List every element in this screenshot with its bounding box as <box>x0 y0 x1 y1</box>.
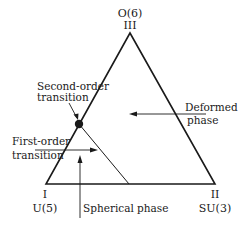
left-vertex-roman: I <box>43 188 47 201</box>
deformed-phase-label-line2: phase <box>187 114 218 126</box>
symmetry-triangle-diagram: O(6) III I U(5) II SU(3) Second-order tr… <box>0 0 240 228</box>
left-vertex-symmetry: U(5) <box>33 202 58 215</box>
right-vertex-roman: II <box>211 188 220 201</box>
first-order-label-line2: transition <box>12 149 64 161</box>
first-order-label-line1: First-order <box>12 135 71 147</box>
right-vertex-symmetry: SU(3) <box>199 202 231 215</box>
second-order-label-line2: transition <box>37 91 89 103</box>
second-order-arrow <box>69 103 79 120</box>
top-vertex-roman: III <box>123 19 136 32</box>
spherical-phase-arrow <box>78 155 83 218</box>
spherical-phase-label: Spherical phase <box>83 202 168 214</box>
phase-boundary-line <box>79 124 129 184</box>
critical-point <box>75 120 83 128</box>
deformed-phase-label-line1: Deformed <box>185 101 238 113</box>
